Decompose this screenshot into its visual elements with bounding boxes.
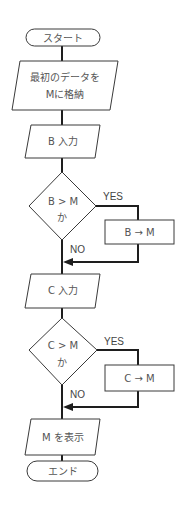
decision-b-line2: か: [57, 212, 67, 223]
display-label: M を表示: [42, 431, 84, 443]
arrow-icon: [63, 258, 73, 266]
connector-yes-c: [97, 350, 138, 365]
input-b-label: B 入力: [48, 135, 78, 147]
input-c-label: C 入力: [48, 284, 78, 296]
store-label-line2: Mに格納: [46, 88, 85, 100]
yes-label-b: YES: [103, 191, 123, 202]
assign-b-label: B → M: [124, 227, 154, 238]
store-process: [12, 61, 118, 110]
assign-c-label: C → M: [124, 373, 154, 384]
no-label-b: NO: [70, 244, 85, 255]
yes-label-c: YES: [104, 336, 124, 347]
store-label-line1: 最初のデータを: [30, 71, 100, 83]
start-label: スタート: [43, 33, 83, 44]
no-label-c: NO: [70, 389, 85, 400]
flowchart: スタート 最初のデータを Mに格納 B 入力 B > M か YES NO B …: [0, 0, 189, 509]
decision-b-line1: B > M: [48, 196, 78, 207]
arrow-icon: [63, 403, 73, 411]
connector-yes-b: [96, 206, 138, 220]
end-label: エンド: [48, 466, 78, 477]
decision-c-line1: C > M: [48, 340, 78, 351]
decision-c: [29, 318, 97, 385]
decision-c-line2: か: [57, 357, 67, 368]
